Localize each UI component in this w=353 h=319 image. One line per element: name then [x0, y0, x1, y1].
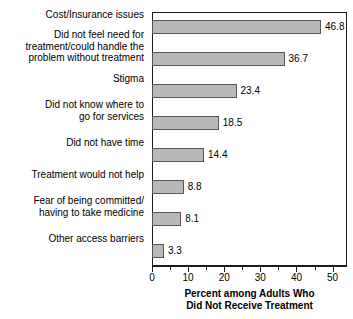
category-label: Fear of being committed/ having to take …: [0, 195, 144, 218]
category-label: Did not have time: [0, 137, 144, 149]
x-axis-minor-tick: [206, 266, 207, 270]
bar-value-label: 3.3: [168, 244, 182, 258]
bar-value-label: 8.8: [188, 180, 202, 194]
x-axis-tick-label: 0: [140, 272, 164, 284]
category-label: Did not feel need for treatment/could ha…: [0, 29, 144, 64]
bar: [152, 52, 285, 66]
x-axis-tick-label: 50: [321, 272, 345, 284]
x-axis-minor-tick: [278, 266, 279, 270]
bar-chart: Cost/Insurance issuesDid not feel need f…: [0, 0, 353, 319]
bar: [152, 116, 219, 130]
bar: [152, 20, 321, 34]
category-label: Stigma: [0, 73, 144, 85]
bar: [152, 244, 164, 258]
bars-layer: 46.836.723.418.514.48.88.13.3: [152, 12, 347, 266]
x-axis-minor-tick: [170, 266, 171, 270]
category-label-column: Cost/Insurance issuesDid not feel need f…: [0, 0, 148, 272]
bar: [152, 180, 184, 194]
x-axis-title: Percent among Adults Who Did Not Receive…: [152, 288, 347, 312]
bar-value-label: 14.4: [208, 148, 227, 162]
x-axis-tick-label: 40: [284, 272, 308, 284]
x-axis-line: [152, 265, 347, 267]
bar: [152, 148, 204, 162]
bar: [152, 84, 237, 98]
category-label: Treatment would not help: [0, 169, 144, 181]
x-axis-minor-tick: [242, 266, 243, 270]
x-axis-minor-tick: [315, 266, 316, 270]
bar-value-label: 8.1: [185, 212, 199, 226]
bar: [152, 212, 181, 226]
x-axis-tick-label: 30: [248, 272, 272, 284]
x-axis-tick-label: 20: [212, 272, 236, 284]
bar-value-label: 46.8: [325, 20, 344, 34]
bar-value-label: 36.7: [289, 52, 308, 66]
bar-value-label: 23.4: [241, 84, 260, 98]
category-label: Other access barriers: [0, 233, 144, 245]
category-label: Cost/Insurance issues: [0, 9, 144, 21]
bar-value-label: 18.5: [223, 116, 242, 130]
category-label: Did not know where to go for services: [0, 99, 144, 122]
x-axis-tick-label: 10: [176, 272, 200, 284]
